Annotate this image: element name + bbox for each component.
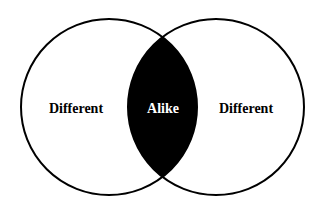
right-label: Different	[219, 101, 273, 116]
venn-diagram: Different Alike Different	[0, 0, 321, 207]
center-label: Alike	[147, 101, 179, 116]
left-label: Different	[49, 101, 103, 116]
